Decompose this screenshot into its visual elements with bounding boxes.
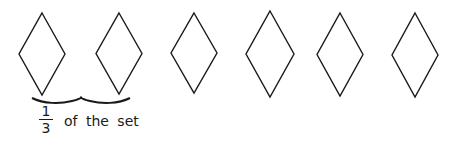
diamond-shape-4 — [246, 11, 294, 97]
fraction-numerator: 1 — [38, 104, 54, 119]
caption-of-the-set: of the set — [64, 113, 139, 129]
diamond-shape-1 — [19, 13, 65, 95]
fraction-one-third: 1 3 — [38, 104, 54, 135]
diamond-shape-5 — [317, 13, 363, 96]
diamond-shape-2 — [96, 13, 142, 94]
diamond-shape-3 — [171, 13, 217, 93]
fraction-denominator: 3 — [38, 120, 54, 135]
diamond-shape-6 — [392, 13, 438, 97]
